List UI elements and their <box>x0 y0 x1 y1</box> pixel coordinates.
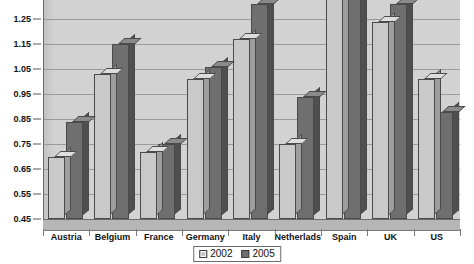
bar-side <box>175 134 181 214</box>
x-axis-separator <box>414 229 415 236</box>
bar-face <box>48 157 65 220</box>
y-axis-tick-mark <box>33 219 41 220</box>
bar-side <box>129 34 135 214</box>
plot-area <box>43 0 460 219</box>
x-axis-tick-label: Belgium <box>95 232 131 242</box>
bar-face <box>140 152 157 220</box>
bar-group <box>276 0 322 219</box>
bar-side <box>343 0 349 214</box>
bar-side <box>389 11 395 214</box>
bar-group <box>90 0 136 219</box>
y-axis-tick-mark <box>33 119 41 120</box>
bar-side <box>314 86 320 214</box>
chart-floor-edge <box>43 230 460 231</box>
y-axis-tick-label: 1.25 <box>13 14 31 24</box>
x-axis-tick-label: France <box>144 232 174 242</box>
bar-group <box>44 0 90 219</box>
bar-top <box>442 106 466 112</box>
y-axis-tick-mark <box>33 169 41 170</box>
bar-chart: 1.251.151.050.950.850.750.650.550.45 Aus… <box>0 0 474 264</box>
legend-swatch-icon <box>199 250 207 258</box>
bar-side <box>204 69 210 214</box>
bar-face <box>233 39 250 219</box>
bar-group <box>183 0 229 219</box>
x-axis-tick-label: Italy <box>242 232 260 242</box>
y-axis-tick-label: 1.15 <box>13 39 31 49</box>
bar-side <box>361 0 367 214</box>
bar-side <box>296 134 302 214</box>
x-axis-separator <box>136 229 137 236</box>
bar-face <box>279 144 296 219</box>
legend-label: 2005 <box>253 248 275 259</box>
bar-group <box>415 0 461 219</box>
bar-group <box>229 0 275 219</box>
bar-italy-2002 <box>233 39 250 219</box>
bar-side <box>453 101 459 214</box>
y-axis-tick-mark <box>33 144 41 145</box>
legend-swatch-icon <box>242 250 250 258</box>
bar-germany-2002 <box>187 79 204 219</box>
y-axis-tick-label: 0.95 <box>13 89 31 99</box>
bar-top <box>424 73 448 79</box>
bar-side <box>407 0 413 214</box>
y-axis-tick-mark <box>33 19 41 20</box>
legend-entry-2002[interactable]: 2002 <box>199 248 232 259</box>
y-axis-tick-label: 1.05 <box>13 64 31 74</box>
y-axis-tick-label: 0.85 <box>13 114 31 124</box>
y-axis-tick-label: 0.45 <box>13 214 31 224</box>
y-axis-tick-mark <box>33 69 41 70</box>
bar-face <box>326 0 343 219</box>
bar-face <box>418 79 435 219</box>
bar-side <box>268 0 274 214</box>
y-axis-tick-mark <box>33 94 41 95</box>
y-axis-tick-mark <box>33 194 41 195</box>
bar-france-2002 <box>140 152 157 220</box>
x-axis-separator <box>182 229 183 236</box>
x-axis-tick-label: UK <box>384 232 397 242</box>
bar-uk-2002 <box>372 22 389 220</box>
bar-netherlads-2002 <box>279 144 296 219</box>
x-axis-tick-label: Germany <box>186 232 225 242</box>
bar-side <box>157 141 163 214</box>
bar-austria-2002 <box>48 157 65 220</box>
bar-side <box>111 64 117 214</box>
bar-side <box>435 69 441 214</box>
chart-legend: 20022005 <box>193 246 281 262</box>
bar-group <box>368 0 414 219</box>
x-axis-tick-label: Netherlads <box>275 232 322 242</box>
x-axis-separator <box>275 229 276 236</box>
x-axis-tick-label: US <box>431 232 444 242</box>
x-axis-tick-label: Austria <box>51 232 82 242</box>
y-axis-tick-label: 0.75 <box>13 139 31 149</box>
y-axis: 1.251.151.050.950.850.750.650.550.45 <box>0 0 43 264</box>
bar-spain-2002 <box>326 0 343 219</box>
bar-us-2002 <box>418 79 435 219</box>
x-axis-separator <box>89 229 90 236</box>
bar-group <box>322 0 368 219</box>
bar-belgium-2002 <box>94 74 111 219</box>
x-axis-tick-label: Spain <box>332 232 357 242</box>
y-axis-tick-label: 0.55 <box>13 189 31 199</box>
x-axis-separator <box>460 229 461 236</box>
bar-side <box>83 111 89 214</box>
bar-face <box>372 22 389 220</box>
legend-entry-2005[interactable]: 2005 <box>242 248 275 259</box>
x-axis-separator <box>367 229 368 236</box>
bar-side <box>222 56 228 214</box>
bar-face <box>187 79 204 219</box>
x-axis-separator <box>228 229 229 236</box>
y-axis-tick-label: 0.65 <box>13 164 31 174</box>
bar-group <box>137 0 183 219</box>
bar-side <box>250 29 256 214</box>
x-axis-separator <box>43 229 44 236</box>
x-axis-separator <box>321 229 322 236</box>
y-axis-tick-mark <box>33 44 41 45</box>
bar-face <box>94 74 111 219</box>
legend-label: 2002 <box>210 248 232 259</box>
